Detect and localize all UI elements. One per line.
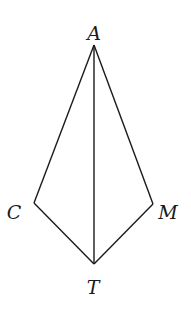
segment-ma bbox=[94, 45, 153, 204]
segment-tm bbox=[94, 204, 153, 264]
vertex-label-m: M bbox=[157, 201, 178, 223]
segment-ct bbox=[34, 203, 94, 264]
kite-diagram: ACMT bbox=[0, 0, 191, 313]
vertex-label-t: T bbox=[87, 276, 101, 298]
segment-ac bbox=[34, 45, 94, 203]
vertex-label-a: A bbox=[85, 22, 101, 44]
vertex-label-c: C bbox=[7, 201, 22, 223]
